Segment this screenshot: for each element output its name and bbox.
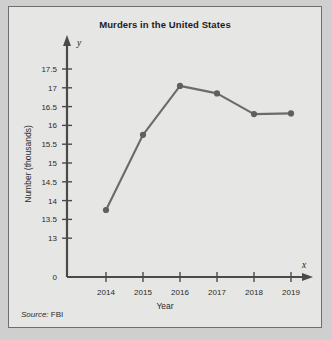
x-tick-label: 2015 bbox=[134, 288, 152, 297]
y-axis-letter: y bbox=[76, 38, 82, 48]
y-tick-label: 17 bbox=[48, 84, 57, 93]
data-series-line bbox=[106, 86, 291, 210]
y-tick-label: 16 bbox=[48, 121, 57, 130]
y-tick-label: 13.5 bbox=[41, 215, 57, 224]
source-note: Source: FBI bbox=[21, 310, 63, 319]
y-tick-label: 14.5 bbox=[41, 178, 57, 187]
data-point-marker bbox=[140, 132, 146, 138]
y-tick-label: 14 bbox=[48, 197, 57, 206]
x-tick-label: 2014 bbox=[97, 288, 115, 297]
y-tick-label: 15.5 bbox=[41, 140, 57, 149]
x-tick-label: 2016 bbox=[171, 288, 189, 297]
x-tick-label: 2019 bbox=[282, 288, 300, 297]
y-axis-arrow-icon bbox=[63, 35, 71, 46]
y-tick-label: 16.5 bbox=[41, 103, 57, 112]
y-tick-label: 15 bbox=[48, 159, 57, 168]
data-point-marker bbox=[103, 207, 109, 213]
data-point-markers bbox=[103, 83, 294, 213]
x-tick-label: 2018 bbox=[245, 288, 263, 297]
x-tick-label: 2017 bbox=[208, 288, 226, 297]
source-label: Source: bbox=[21, 310, 49, 319]
line-chart-plot: 17.5 17 16.5 16 15.5 15 14.5 14 13.5 13 … bbox=[9, 7, 323, 329]
chart-card: Murders in the United States 17.5 17 16.… bbox=[8, 6, 322, 328]
y-axis-tick-labels: 17.5 17 16.5 16 15.5 15 14.5 14 13.5 13 … bbox=[41, 65, 57, 282]
data-point-marker bbox=[214, 90, 220, 96]
data-point-marker bbox=[251, 111, 257, 117]
y-tick-label: 13 bbox=[48, 234, 57, 243]
y-tick-label: 17.5 bbox=[41, 65, 57, 74]
x-axis-letter: x bbox=[301, 260, 307, 270]
y-axis-label: Number (thousands) bbox=[23, 109, 33, 219]
data-point-marker bbox=[177, 83, 183, 89]
y-tick-label-zero: 0 bbox=[53, 273, 58, 282]
source-value: FBI bbox=[51, 310, 63, 319]
x-axis-arrow-icon bbox=[302, 273, 313, 281]
data-point-marker bbox=[288, 110, 294, 116]
x-axis-tick-labels: 2014 2015 2016 2017 2018 2019 bbox=[97, 288, 300, 297]
